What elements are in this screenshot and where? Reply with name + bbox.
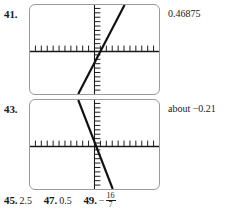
fraction-numerator: 16 (106, 192, 116, 200)
exercise-number-45: 45. (4, 194, 17, 206)
answer-item-49: 49.−167 (83, 192, 115, 210)
answer-41: 0.46875 (168, 8, 201, 20)
exercise-row-43: 43. (0, 97, 233, 192)
answer-item-47: 47.0.5 (44, 193, 72, 208)
answer-key-page: 41. (0, 0, 233, 213)
exercise-number-41: 41. (4, 8, 17, 20)
calculator-screen-41 (29, 4, 160, 95)
fraction-denominator: 7 (106, 200, 116, 209)
plotted-line-43 (78, 100, 112, 189)
exercise-number-43: 43. (4, 103, 17, 115)
line-graph-43 (30, 100, 159, 189)
answer-45: 2.5 (19, 195, 32, 206)
answer-item-45: 45.2.5 (4, 193, 32, 208)
answer-47: 0.5 (59, 195, 72, 206)
plotted-line-41 (78, 5, 124, 94)
exercise-number-47: 47. (44, 194, 57, 206)
line-graph-41 (30, 5, 159, 94)
bottom-answer-line: 45.2.5 47.0.5 49.−167 (4, 192, 233, 213)
exercise-row-41: 41. (0, 2, 233, 97)
y-axis-ticks (95, 8, 101, 90)
answer-49-fraction: 167 (106, 192, 116, 210)
answer-49-sign: − (99, 195, 105, 206)
calculator-screen-43 (29, 99, 160, 190)
exercise-number-49: 49. (83, 194, 96, 206)
answer-43: about −0.21 (168, 103, 216, 115)
